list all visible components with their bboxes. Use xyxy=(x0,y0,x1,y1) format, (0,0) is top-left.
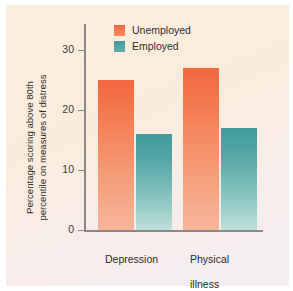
y-axis-title-line1: Percentage scoring above 80th xyxy=(24,53,37,243)
legend-item-unemployed: Unemployed xyxy=(114,22,191,38)
legend-label-unemployed: Unemployed xyxy=(132,25,191,36)
y-tick-10 xyxy=(78,170,85,171)
y-axis-title-line2: percentile on measures of distress xyxy=(36,53,49,243)
legend-swatch-unemployed xyxy=(114,25,125,36)
x-axis-category-physical-illness-line2: illness xyxy=(190,278,229,291)
y-tick-label-10-wrap: 10 xyxy=(44,164,74,176)
legend-item-employed: Employed xyxy=(114,38,191,54)
y-tick-label-10: 10 xyxy=(44,164,74,175)
y-tick-label-0-wrap: 0 xyxy=(44,224,74,236)
legend-swatch-employed xyxy=(114,41,125,52)
y-tick-label-0: 0 xyxy=(44,224,74,235)
y-tick-label-30-wrap: 30 xyxy=(44,44,74,56)
y-axis-title: Percentage scoring above 80th percentile… xyxy=(24,53,49,243)
x-axis-category-physical-illness-line1: Physical xyxy=(190,253,229,266)
x-axis-category-depression: Depression xyxy=(105,240,158,265)
y-tick-20 xyxy=(78,110,85,111)
bar-chart-plot-area: Unemployed Employed 0 10 20 30 Pe xyxy=(0,0,293,291)
bar-physical-illness-employed xyxy=(221,128,257,230)
chart-figure: Unemployed Employed 0 10 20 30 Pe xyxy=(0,0,293,291)
x-axis-category-depression-line1: Depression xyxy=(105,253,158,265)
bar-depression-unemployed xyxy=(98,80,134,230)
chart-legend: Unemployed Employed xyxy=(114,22,191,54)
y-tick-label-20: 20 xyxy=(44,104,74,115)
y-tick-label-30: 30 xyxy=(44,44,74,55)
y-tick-30 xyxy=(78,50,85,51)
legend-label-employed: Employed xyxy=(132,41,179,52)
x-axis-line xyxy=(84,230,263,232)
bar-physical-illness-unemployed xyxy=(183,68,219,230)
y-tick-0 xyxy=(78,230,85,231)
y-axis-line xyxy=(84,24,86,231)
y-tick-label-20-wrap: 20 xyxy=(44,104,74,116)
bar-depression-employed xyxy=(136,134,172,230)
x-axis-category-physical-illness: Physical illness xyxy=(190,240,229,291)
